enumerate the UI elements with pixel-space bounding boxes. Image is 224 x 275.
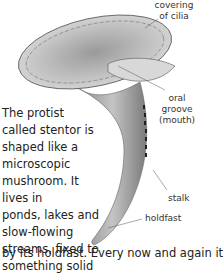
text-line: shaped like a (2, 139, 106, 156)
label-line: oral (157, 93, 197, 104)
label-line: covering (152, 0, 196, 11)
text-line: microscopic (2, 156, 106, 173)
text-line: mushroom. It lives in (2, 173, 106, 207)
label-stalk: stalk (168, 193, 189, 204)
text-line: called stentor is (2, 122, 106, 139)
body-text-overflow-line: by its holdfast. Every now and again it (2, 245, 223, 262)
text-line: slow-flowing (2, 224, 106, 241)
label-covering-of-cilia: covering of cilia (152, 0, 196, 22)
label-line: (mouth) (157, 115, 197, 126)
text-line: The protist (2, 105, 106, 122)
label-oral-groove: oral groove (mouth) (157, 93, 197, 126)
label-line: groove (157, 104, 197, 115)
text-line: ponds, lakes and (2, 207, 106, 224)
label-holdfast: holdfast (145, 213, 181, 224)
label-line: of cilia (152, 11, 196, 22)
